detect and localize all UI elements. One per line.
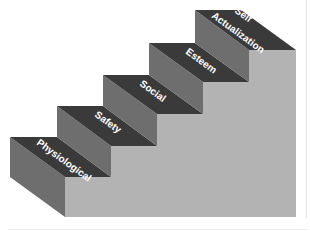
staircase-svg: Physiological Safety Social Esteem Self …	[0, 0, 310, 231]
staircase-diagram: Physiological Safety Social Esteem Self …	[0, 0, 310, 231]
bottom-border-line	[8, 229, 308, 230]
right-border-line	[306, 0, 307, 218]
